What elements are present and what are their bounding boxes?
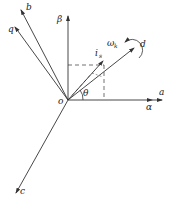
q-axis [15,27,68,100]
label-b: b [26,2,32,12]
label-c: c [20,186,25,196]
label-q: q [8,24,14,34]
c-axis [16,100,68,193]
label-is-sub: s [99,52,102,59]
label-omega-sub: k [114,42,118,49]
reference-frame-diagram: a α β b c d q o θ i s ω k [0,0,174,201]
label-is: i [95,48,98,58]
label-d: d [140,39,146,49]
label-a: a [159,87,164,97]
label-origin: o [58,96,64,106]
label-alpha: α [146,102,152,112]
label-beta: β [56,14,62,24]
label-theta: θ [83,88,89,98]
